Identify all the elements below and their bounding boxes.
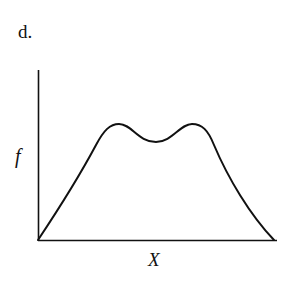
x-axis-label: X xyxy=(148,250,160,269)
plot-area xyxy=(0,0,284,281)
density-curve xyxy=(38,124,274,240)
y-axis-label: f xyxy=(15,146,21,166)
